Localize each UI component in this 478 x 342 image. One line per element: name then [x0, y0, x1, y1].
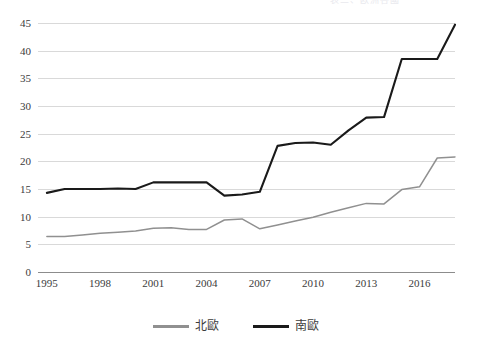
- chart-legend: 北歐南歐: [0, 316, 478, 336]
- y-tick-label-35: 35: [20, 73, 31, 84]
- series-container: [38, 23, 455, 272]
- chart-title-remnant: 表三、欧洲各國: [330, 0, 440, 5]
- y-tick-label-45: 45: [20, 18, 31, 29]
- legend-swatch-south_europe: [253, 325, 289, 328]
- x-tick-label-2013: 2013: [355, 277, 377, 289]
- legend-item-north_europe[interactable]: 北歐: [153, 320, 219, 333]
- x-tick-label-2010: 2010: [302, 277, 324, 289]
- x-tick-label-2001: 2001: [142, 277, 164, 289]
- legend-label-north_europe: 北歐: [195, 320, 219, 333]
- y-tick-label-25: 25: [20, 128, 31, 139]
- x-tick-label-2007: 2007: [249, 277, 271, 289]
- x-tick-label-2016: 2016: [409, 277, 431, 289]
- gridline-0: [38, 272, 455, 273]
- plot-area: 051015202530354045: [38, 23, 455, 272]
- line-chart: 表三、欧洲各國 051015202530354045 1995199820012…: [0, 0, 478, 342]
- y-tick-label-20: 20: [20, 156, 31, 167]
- y-tick-label-30: 30: [20, 101, 31, 112]
- x-tick-label-2004: 2004: [196, 277, 218, 289]
- y-tick-label-0: 0: [26, 267, 32, 278]
- y-tick-label-40: 40: [20, 45, 31, 56]
- legend-swatch-north_europe: [153, 325, 189, 328]
- y-tick-label-10: 10: [20, 211, 31, 222]
- y-tick-label-15: 15: [20, 184, 31, 195]
- y-tick-label-5: 5: [26, 239, 32, 250]
- legend-item-south_europe[interactable]: 南歐: [253, 320, 319, 333]
- x-tick-label-1995: 1995: [36, 277, 58, 289]
- series-line-南歐: [47, 25, 455, 196]
- x-tick-label-1998: 1998: [89, 277, 111, 289]
- legend-label-south_europe: 南歐: [295, 320, 319, 333]
- x-axis-tick-labels: 19951998200120042007201020132016: [38, 277, 455, 295]
- series-line-北歐: [47, 157, 455, 237]
